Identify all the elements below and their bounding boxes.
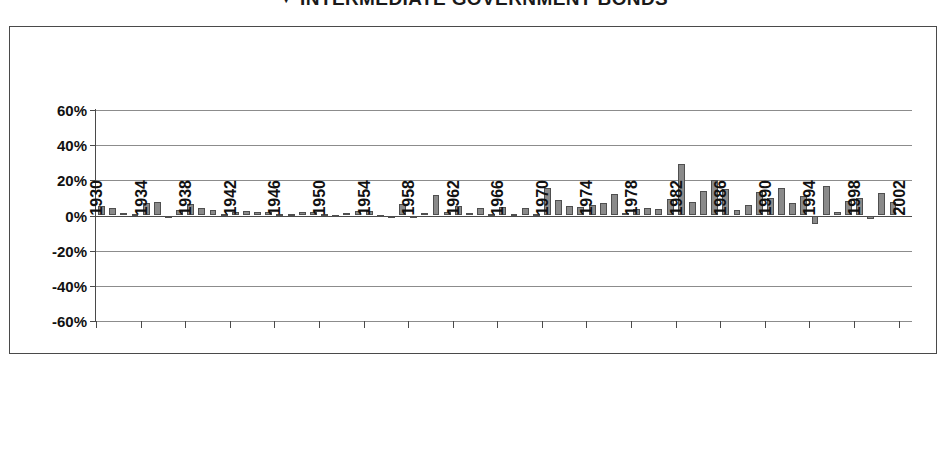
x-axis-tick: [497, 321, 498, 328]
gridline-neg20: [96, 251, 912, 252]
x-axis-tick: [542, 321, 543, 328]
bar: [243, 211, 250, 215]
x-axis-tick: [96, 321, 97, 328]
x-axis-tick: [274, 321, 275, 328]
y-axis-tick: [90, 251, 96, 252]
bar: [700, 191, 707, 216]
bar: [600, 203, 607, 216]
x-axis-tick: [854, 321, 855, 328]
x-axis-tick: [809, 321, 810, 328]
bar: [388, 216, 395, 218]
x-axis-label: 1934: [133, 180, 151, 216]
x-axis-label: 1974: [578, 180, 596, 216]
x-axis-label: 2002: [891, 180, 909, 216]
x-axis-tick: [586, 321, 587, 328]
x-axis-tick: [141, 321, 142, 328]
x-axis-label: 1962: [445, 180, 463, 216]
bar: [120, 213, 127, 216]
bar: [867, 216, 874, 219]
bar: [198, 208, 205, 216]
x-axis-tick: [765, 321, 766, 328]
bar: [377, 215, 384, 217]
bar: [778, 188, 785, 215]
x-axis-label: 1982: [668, 180, 686, 216]
x-axis-tick: [230, 321, 231, 328]
x-axis-label: 1954: [356, 180, 374, 216]
x-axis-label: 1938: [177, 180, 195, 216]
x-axis-tick: [319, 321, 320, 328]
x-axis-label: 1994: [801, 180, 819, 216]
y-axis-label: -60%: [52, 313, 87, 330]
bar: [343, 213, 350, 216]
title-text: INTERMEDIATE GOVERNMENT BONDS: [300, 0, 668, 9]
x-axis-label: 1978: [623, 180, 641, 216]
x-axis-tick: [720, 321, 721, 328]
bar: [644, 208, 651, 215]
y-axis-tick: [90, 110, 96, 111]
bar: [522, 208, 529, 216]
gridline-60: [96, 110, 912, 111]
bar: [789, 203, 796, 216]
title-triangle-marker: ▼: [279, 0, 294, 6]
chart-title: ▼INTERMEDIATE GOVERNMENT BONDS: [0, 0, 947, 10]
bar: [566, 206, 573, 215]
x-axis-label: 1930: [88, 180, 106, 216]
gridline-40: [96, 145, 912, 146]
bar: [878, 193, 885, 215]
bar: [689, 202, 696, 215]
x-axis-tick: [453, 321, 454, 328]
x-axis-tick: [408, 321, 409, 328]
x-axis-label: 1986: [712, 180, 730, 216]
x-axis-tick: [364, 321, 365, 328]
y-axis-label: -40%: [52, 277, 87, 294]
bar: [477, 208, 484, 215]
bar: [823, 186, 830, 216]
x-axis-label: 1946: [266, 180, 284, 216]
x-axis-label: 1942: [222, 180, 240, 216]
bar: [834, 212, 841, 216]
bar: [332, 215, 339, 217]
x-axis-tick: [676, 321, 677, 328]
bar: [421, 213, 428, 215]
bar: [466, 213, 473, 216]
bar: [655, 209, 662, 216]
y-axis-tick: [90, 145, 96, 146]
x-axis-tick: [899, 321, 900, 328]
y-axis-label: 40%: [57, 137, 87, 154]
bar: [288, 214, 295, 216]
bar: [555, 200, 562, 215]
bar: [511, 214, 518, 216]
x-axis-label: 1970: [534, 180, 552, 216]
x-axis-label: 1958: [400, 180, 418, 216]
y-axis-label: -20%: [52, 242, 87, 259]
bar: [165, 216, 172, 218]
x-axis-label: 1950: [311, 180, 329, 216]
y-axis-tick: [90, 216, 96, 217]
bar: [812, 216, 819, 225]
plot-area: 60%40%20%0%-20%-40%-60% 1930193419381942…: [96, 110, 912, 321]
x-axis-label: 1990: [757, 180, 775, 216]
bar: [745, 205, 752, 216]
bar: [433, 195, 440, 216]
bar: [154, 202, 161, 216]
x-axis-tick: [631, 321, 632, 328]
y-axis-label: 60%: [57, 102, 87, 119]
y-axis-label: 20%: [57, 172, 87, 189]
gridline-neg60: [96, 321, 912, 322]
y-axis-tick: [90, 286, 96, 287]
bar: [611, 194, 618, 216]
x-axis-label: 1998: [846, 180, 864, 216]
bar: [210, 210, 217, 216]
bar: [299, 212, 306, 215]
x-axis-tick: [185, 321, 186, 328]
bar: [254, 212, 261, 215]
bar: [734, 210, 741, 215]
y-axis-label: 0%: [65, 207, 87, 224]
bar: [109, 208, 116, 216]
bar: [410, 216, 417, 218]
x-axis-label: 1966: [489, 180, 507, 216]
gridline-neg40: [96, 286, 912, 287]
gridline-0: [96, 216, 912, 217]
